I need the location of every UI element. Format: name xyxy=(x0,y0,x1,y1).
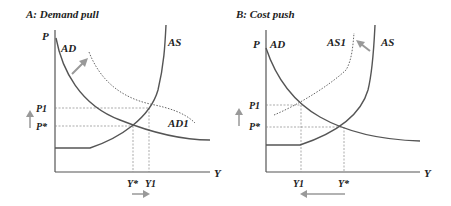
inflation-diagrams: A: Demand pull P Y AD AS AD1 P1 P* Y* Y1 xyxy=(0,0,451,206)
shift-arrow-icon xyxy=(356,40,370,51)
as1-label: AS1 xyxy=(326,36,346,48)
shift-arrow-icon xyxy=(72,58,88,74)
ad1-label: AD1 xyxy=(167,117,189,129)
ystar-label: Y* xyxy=(338,178,350,189)
price-up-arrow-icon xyxy=(235,108,243,126)
p1-label: P1 xyxy=(36,103,47,114)
panel-a-title: A: Demand pull xyxy=(25,8,100,20)
pstar-label: P* xyxy=(36,121,48,132)
output-left-arrow-icon xyxy=(300,190,345,198)
panel-demand-pull: A: Demand pull P Y AD AS AD1 P1 P* Y* Y1 xyxy=(25,8,222,198)
ystar-label: Y* xyxy=(127,178,139,189)
y1-label: Y1 xyxy=(293,178,304,189)
as-label: AS xyxy=(380,36,394,48)
output-right-arrow-icon xyxy=(132,190,150,198)
as-label: AS xyxy=(167,36,181,48)
pstar-label: P* xyxy=(249,121,261,132)
x-axis-label: Y xyxy=(214,167,222,179)
y-axis-label: P xyxy=(42,30,49,42)
y-axis-label: P xyxy=(253,38,260,50)
price-up-arrow-icon xyxy=(26,110,34,128)
panel-b-title: B: Cost push xyxy=(235,8,295,20)
ad-label: AD xyxy=(269,38,285,50)
ad-label: AD xyxy=(60,42,76,54)
p1-label: P1 xyxy=(249,100,260,111)
panel-cost-push: B: Cost push P Y AD AS1 AS P1 P* Y1 Y* xyxy=(235,8,432,198)
ad-curve xyxy=(266,48,420,141)
y1-label: Y1 xyxy=(145,178,156,189)
x-axis-label: Y xyxy=(424,167,432,179)
